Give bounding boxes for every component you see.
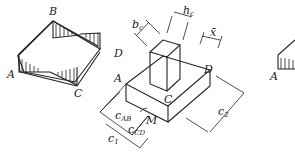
footing-diagram: B A C D bc hc x̄ c2	[0, 0, 295, 168]
label-c2: c2	[218, 105, 229, 119]
label-B: B	[48, 5, 57, 18]
label-c1: c1	[108, 132, 119, 146]
label-cCD: cCD	[128, 123, 146, 137]
right-partial-slab: A	[269, 40, 295, 83]
label-cAB: cAB	[115, 109, 131, 123]
center-footing: bc hc x̄ c2 cAB cCD M c1 A C D	[100, 4, 244, 148]
label-xbar: x̄	[210, 26, 217, 39]
label-hc: hc	[183, 4, 194, 18]
label-D-center: D	[203, 63, 213, 76]
label-A: A	[6, 68, 15, 81]
label-A-center: A	[113, 72, 122, 85]
label-bc: bc	[132, 18, 143, 32]
label-D: D	[113, 47, 123, 60]
label-M: M	[145, 114, 158, 127]
label-C: C	[74, 87, 83, 100]
left-pressure-slab: B A C D	[6, 5, 123, 100]
label-A-right: A	[269, 70, 278, 83]
label-C-center: C	[164, 93, 173, 106]
